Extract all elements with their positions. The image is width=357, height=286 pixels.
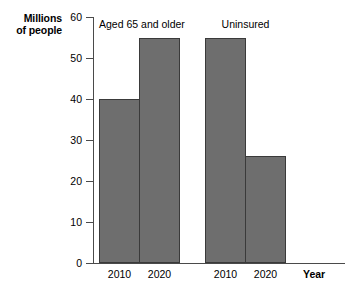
y-axis-tick: [86, 263, 94, 264]
bar: [99, 99, 140, 263]
y-axis-tick-label-text: 0: [56, 258, 82, 268]
y-axis-title-line-2: of people: [0, 24, 62, 36]
y-axis-tick: [86, 99, 94, 100]
y-axis-tick-label: 20: [56, 176, 82, 186]
y-axis-tick-label-text: 50: [56, 53, 82, 63]
y-axis-tick-label-text: 60: [56, 12, 82, 22]
y-axis-tick: [86, 181, 94, 182]
y-axis-tick: [86, 58, 94, 59]
y-axis-tick-label: 50: [56, 53, 82, 63]
y-axis-title-line-1: Millions: [0, 12, 62, 24]
y-axis-tick-label: 30: [56, 135, 82, 145]
bar: [139, 38, 180, 264]
y-axis-tick: [86, 222, 94, 223]
y-axis-tick-label-text: 40: [56, 94, 82, 104]
y-axis-tick-label-text: 10: [56, 217, 82, 227]
y-axis-tick: [86, 140, 94, 141]
x-axis-tick-label: 2010: [205, 268, 246, 280]
y-axis-tick-label-text: 30: [56, 135, 82, 145]
y-axis-tick: [86, 17, 94, 18]
group-label: Uninsured: [205, 18, 286, 30]
y-axis-tick-label: 60: [56, 12, 82, 22]
x-axis-tick-label: 2020: [139, 268, 180, 280]
y-axis-tick-label: 40: [56, 94, 82, 104]
group-label: Aged 65 and older: [99, 18, 180, 30]
x-axis-title: Year: [303, 268, 325, 280]
x-axis-line: [93, 263, 345, 264]
x-axis-tick-label: 2020: [245, 268, 286, 280]
y-axis-title: Millions of people: [0, 12, 62, 36]
x-axis-tick-label: 2010: [99, 268, 140, 280]
y-axis-tick-label: 0: [56, 258, 82, 268]
bar: [245, 156, 286, 263]
y-axis-tick-label: 10: [56, 217, 82, 227]
bar-chart: Millions of people 0102030405060 Aged 65…: [0, 0, 357, 286]
y-axis-tick-label-text: 20: [56, 176, 82, 186]
bar: [205, 38, 246, 264]
